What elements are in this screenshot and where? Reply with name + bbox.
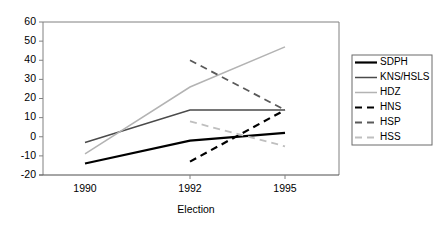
- legend-label-hss: HSS: [380, 131, 401, 142]
- legend-label-hns: HNS: [380, 101, 401, 112]
- y-axis-tick-label: 50: [24, 34, 36, 46]
- y-axis-tick-label: 60: [24, 15, 36, 27]
- x-axis-tick-label: 1995: [273, 182, 297, 194]
- y-axis-tick-label: -20: [21, 168, 36, 180]
- plot-frame: [39, 22, 339, 175]
- x-axis-title: Election: [177, 203, 215, 215]
- x-axis-tick-label: 1992: [178, 182, 202, 194]
- y-axis-tick-label: 10: [24, 110, 36, 122]
- series-group: [85, 47, 285, 164]
- y-axis-tick-label: 20: [24, 91, 36, 103]
- y-axis-tick-label: 30: [24, 72, 36, 84]
- series-line-hdz: [85, 47, 285, 154]
- x-axis-tick-label: 1990: [73, 182, 97, 194]
- legend-label-hsp: HSP: [380, 116, 401, 127]
- y-axis-tick-label: 0: [30, 130, 36, 142]
- series-line-hns: [190, 110, 285, 162]
- y-axis-tick-label: 40: [24, 53, 36, 65]
- series-line-sdph: [85, 133, 285, 164]
- x-axis-tick-group: 199019921995: [73, 175, 297, 194]
- y-axis-tick-label: -10: [21, 149, 36, 161]
- line-chart: 6050403020100-10-20 199019921995 SDPHKNS…: [0, 0, 439, 230]
- legend-label-hdz: HDZ: [380, 86, 401, 97]
- legend-label-kns-hsls: KNS/HSLS: [380, 71, 430, 82]
- chart-legend: SDPHKNS/HSLSHDZHNSHSPHSS: [352, 55, 432, 145]
- legend-label-sdph: SDPH: [380, 56, 408, 67]
- y-axis-tick-group: 6050403020100-10-20: [21, 15, 43, 180]
- chart-container: 6050403020100-10-20 199019921995 SDPHKNS…: [0, 0, 439, 230]
